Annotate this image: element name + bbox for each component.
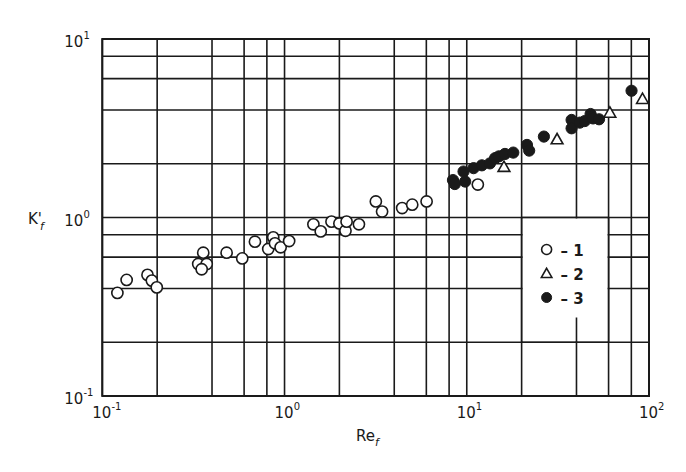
series-1 [112,179,484,299]
filled-circle-marker [508,147,519,158]
x-tick-label: 10-1 [92,401,121,422]
triangle-marker [498,161,510,171]
open-circle-marker [353,219,364,230]
filled-circle-marker [449,178,460,189]
log-log-scatter-chart: 10-1100101102 10-1100101 – 1– 2– 3 Ref K… [0,0,686,472]
open-circle-marker [198,247,209,258]
open-circle-marker [221,247,232,258]
legend-label: – 1 [561,242,584,260]
open-circle-marker [407,199,418,210]
triangle-marker [637,93,649,103]
y-tick-label: 10-1 [64,387,93,408]
open-circle-marker [151,282,162,293]
y-tick-label: 100 [64,209,89,230]
filled-circle-marker [458,166,469,177]
open-circle-marker [284,235,295,246]
x-tick-label: 101 [457,401,482,422]
open-circle-marker [121,274,132,285]
legend-label: – 2 [561,266,584,284]
open-circle-marker [315,226,326,237]
filled-circle-marker [626,85,637,96]
open-circle-marker [421,196,432,207]
open-circle-marker [370,196,381,207]
x-axis-label: Ref [356,427,381,449]
filled-circle-marker [593,114,604,125]
x-tick-label: 100 [275,401,300,422]
open-circle-marker [249,236,260,247]
open-circle-marker [196,264,207,275]
x-axis-tick-labels: 10-1100101102 [92,401,664,422]
y-axis-tick-labels: 10-1100101 [64,30,93,408]
filled-circle-marker [538,131,549,142]
open-circle-marker [542,245,552,255]
x-tick-label: 102 [639,401,664,422]
open-circle-marker [112,287,123,298]
triangle-marker [551,133,563,143]
y-tick-label: 101 [64,30,89,51]
filled-circle-marker [524,145,535,156]
open-circle-marker [376,206,387,217]
filled-circle-marker [542,293,552,303]
triangle-marker [604,107,616,117]
y-axis-label: K'f [28,210,46,233]
legend-label: – 3 [561,290,584,308]
open-circle-marker [237,253,248,264]
open-circle-marker [472,179,483,190]
open-circle-marker [341,216,352,227]
legend: – 1– 2– 3 [541,242,583,308]
filled-circle-marker [460,176,471,187]
